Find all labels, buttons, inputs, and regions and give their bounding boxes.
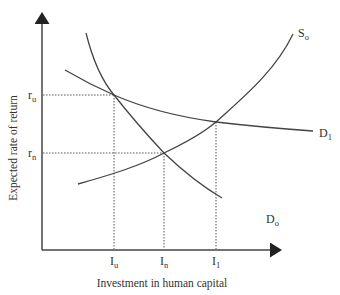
- demand-curve-d1: [65, 70, 313, 131]
- supply-curve-label: So: [298, 26, 309, 42]
- y-axis-label: Expected rate of return: [7, 95, 20, 201]
- demand-d0-label: Do: [266, 212, 279, 228]
- y-tick-ru: ru: [28, 88, 37, 104]
- x-tick-in: In: [160, 254, 169, 270]
- x-tick-i1: I1: [212, 254, 220, 270]
- x-tick-iu: Iu: [110, 254, 119, 270]
- demand-d1-label: D1: [319, 126, 332, 142]
- supply-demand-diagram: So D1 Do ru rn Iu In I1 Investment in hu…: [0, 0, 340, 295]
- x-axis-label: Investment in human capital: [97, 277, 228, 290]
- y-tick-rn: rn: [28, 146, 37, 162]
- supply-curve-s0: [78, 34, 293, 184]
- demand-curve-d0: [86, 33, 222, 198]
